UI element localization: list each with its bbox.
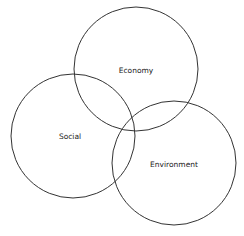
social-label: Social	[59, 132, 81, 141]
economy-label: Economy	[119, 66, 154, 75]
venn-diagram	[0, 0, 244, 236]
environment-label: Environment	[150, 160, 198, 169]
